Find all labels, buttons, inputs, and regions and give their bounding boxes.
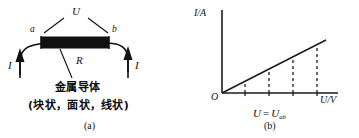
panel-b-iu-graph: I/A U/V O U=Uab (b): [180, 0, 359, 138]
u-leader-right: [88, 18, 108, 33]
conductor-name-label: 金属导体: [55, 82, 100, 93]
resistance-label-R: R: [76, 55, 83, 66]
annotation-subscript-ab: ab: [279, 113, 286, 120]
annotation-U-main: U: [253, 107, 261, 119]
terminal-a-label: a: [30, 25, 35, 35]
annotation-U-sym: U: [271, 107, 279, 119]
y-axis-label: I/A: [194, 8, 206, 18]
x-axis-label: U/V: [320, 95, 336, 105]
annotation-equals: =: [261, 107, 271, 119]
voltage-label-U: U: [72, 6, 80, 17]
physics-figure: U a b R I I 金属导体 (块状，面状，线状) (a): [0, 0, 359, 138]
panel-a-conductor-diagram: U a b R I I 金属导体 (块状，面状，线状) (a): [0, 0, 180, 138]
terminal-b-label: b: [112, 25, 117, 35]
right-current-arrow-icon: [124, 46, 133, 78]
current-label-right: I: [135, 60, 139, 71]
voltage-equality-annotation: U=Uab: [253, 104, 286, 120]
iu-characteristic-line: [222, 40, 326, 93]
dashed-guide-lines: [245, 45, 317, 93]
origin-label: O: [211, 92, 218, 102]
panel-a-caption: (a): [84, 121, 95, 131]
conductor-leader: [60, 49, 72, 78]
panel-b-caption: (b): [264, 121, 276, 131]
current-label-left: I: [8, 60, 12, 71]
panel-a-drawing: [0, 0, 180, 138]
conductor-forms-label: (块状，面状，线状): [28, 100, 129, 111]
u-leader-left: [44, 18, 64, 33]
conductor-block: [41, 37, 109, 48]
